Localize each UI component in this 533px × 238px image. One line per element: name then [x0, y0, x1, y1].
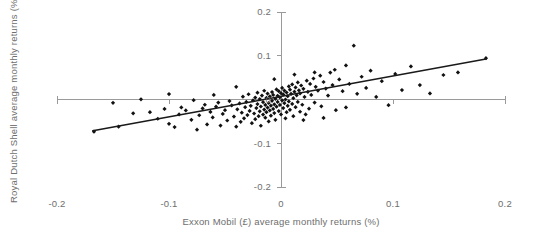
data-point	[173, 125, 177, 129]
data-point	[192, 98, 196, 102]
y-tick-label: 0.2	[257, 6, 271, 17]
data-point	[311, 76, 315, 80]
data-point	[290, 102, 294, 106]
data-point	[234, 85, 238, 89]
data-point	[409, 64, 413, 68]
data-point	[309, 93, 313, 97]
data-point	[326, 93, 330, 97]
data-point	[344, 63, 348, 67]
data-point	[279, 112, 283, 116]
data-point	[282, 101, 286, 105]
data-point	[318, 74, 322, 78]
data-point	[241, 95, 245, 99]
data-point	[267, 119, 271, 123]
data-point	[212, 93, 216, 97]
data-point	[313, 100, 317, 104]
data-point	[360, 75, 364, 79]
data-point	[235, 107, 239, 111]
data-point	[216, 100, 220, 104]
data-point	[287, 84, 291, 88]
data-point	[131, 111, 135, 115]
data-point	[418, 83, 422, 87]
data-point	[245, 113, 249, 117]
data-point	[254, 106, 258, 110]
data-point	[299, 83, 303, 87]
data-point	[249, 104, 253, 108]
data-point	[255, 91, 259, 95]
data-point	[246, 92, 250, 96]
trend-line	[93, 59, 486, 131]
data-point	[400, 88, 404, 92]
data-point	[184, 108, 188, 112]
data-point	[269, 114, 273, 118]
data-point	[319, 104, 323, 108]
data-point	[307, 107, 311, 111]
data-point	[286, 104, 290, 108]
data-point	[328, 70, 332, 74]
data-point	[255, 102, 259, 106]
data-point	[167, 122, 171, 126]
data-point	[189, 118, 193, 122]
data-point	[386, 103, 390, 107]
data-point	[262, 89, 266, 93]
x-tick-label: 0.1	[386, 198, 400, 209]
data-point	[162, 107, 166, 111]
data-point	[292, 72, 296, 76]
data-point	[195, 128, 199, 132]
data-point	[273, 118, 277, 122]
data-point	[428, 91, 432, 95]
data-point	[179, 105, 183, 109]
y-tick-label: -0.2	[254, 181, 271, 192]
data-point	[288, 108, 292, 112]
data-point	[277, 109, 281, 113]
x-axis-title: Exxon Mobil (£) average monthly returns …	[182, 216, 379, 227]
data-point	[288, 88, 292, 92]
data-point	[364, 86, 368, 90]
data-point	[344, 105, 348, 109]
data-point	[263, 116, 267, 120]
data-point	[296, 80, 300, 84]
data-point	[337, 77, 341, 81]
data-point	[333, 68, 337, 72]
data-point	[352, 44, 356, 48]
data-point	[308, 82, 312, 86]
data-point	[148, 110, 152, 114]
data-point	[441, 73, 445, 77]
data-point	[242, 116, 246, 120]
data-point	[369, 69, 373, 73]
data-point	[272, 77, 276, 81]
data-point	[290, 82, 294, 86]
data-point	[248, 109, 252, 113]
data-point	[314, 85, 318, 89]
data-point	[293, 105, 297, 109]
x-tick-label: -0.2	[48, 198, 65, 209]
data-point	[285, 110, 289, 114]
plot-area: -0.2-0.100.10.2-0.2-0.100.10.2Exxon Mobi…	[0, 0, 533, 238]
tick-labels-group: -0.2-0.100.10.2-0.2-0.100.10.2Exxon Mobi…	[8, 0, 512, 227]
data-point	[139, 97, 143, 101]
data-point	[304, 112, 308, 116]
data-point	[341, 89, 345, 93]
data-point	[221, 112, 225, 116]
data-point	[243, 105, 247, 109]
data-point	[250, 121, 254, 125]
data-point	[260, 93, 264, 97]
data-point	[258, 109, 262, 113]
data-point	[232, 114, 236, 118]
data-point	[302, 95, 306, 99]
data-point	[240, 111, 244, 115]
data-point	[355, 92, 359, 96]
data-point	[111, 101, 115, 105]
trendline-group	[93, 59, 486, 131]
y-tick-label: 0	[266, 94, 271, 105]
data-point	[253, 117, 257, 121]
data-point	[291, 114, 295, 118]
data-point	[261, 112, 265, 116]
data-point	[456, 70, 460, 74]
data-point	[313, 70, 317, 74]
scatter-chart: -0.2-0.100.10.2-0.2-0.100.10.2Exxon Mobi…	[0, 0, 533, 238]
data-point	[259, 124, 263, 128]
data-point	[223, 108, 227, 112]
data-point	[298, 110, 302, 114]
data-point	[300, 103, 304, 107]
